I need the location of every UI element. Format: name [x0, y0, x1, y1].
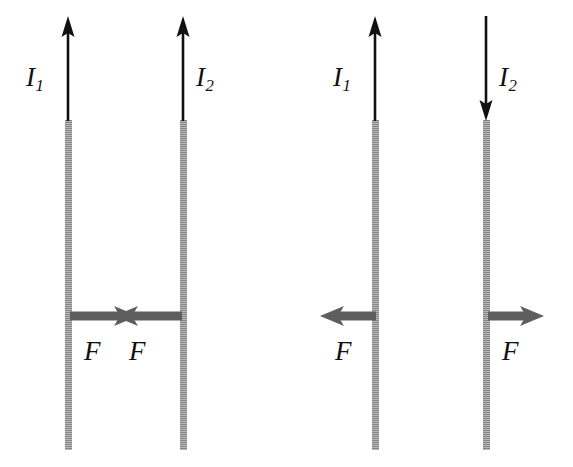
current-arrow-3-up: [367, 16, 383, 121]
current-label-4-symbol: I: [499, 62, 508, 92]
current-label-4-subscript: 2: [509, 76, 517, 95]
force-arrow-4-right: [488, 303, 544, 329]
force-label-3: F: [335, 338, 352, 365]
current-label-2-symbol: I: [196, 62, 205, 92]
wire-3: [372, 120, 379, 450]
current-label-2-subscript: 2: [206, 76, 214, 95]
current-label-3: I1: [333, 64, 350, 91]
current-arrow-1-up: [60, 16, 76, 121]
current-label-2: I2: [196, 64, 213, 91]
wire-1: [65, 120, 72, 450]
force-arrow-2-left: [114, 303, 182, 329]
wire-2: [180, 120, 187, 450]
current-label-4: I2: [499, 64, 516, 91]
current-label-1-symbol: I: [26, 62, 35, 92]
force-label-4: F: [502, 338, 519, 365]
current-label-1-subscript: 1: [36, 76, 44, 95]
current-arrow-2-up: [175, 16, 191, 121]
panel-attraction: I1 I2 F F: [0, 0, 290, 467]
current-label-3-subscript: 1: [343, 76, 351, 95]
current-arrow-4-down: [478, 16, 494, 121]
parallel-wires-force-diagram: I1 I2 F F: [0, 0, 573, 467]
force-label-2: F: [129, 338, 146, 365]
panel-repulsion: I1 I2 F F: [290, 0, 573, 467]
force-arrow-3-left: [320, 303, 376, 329]
wire-4: [483, 120, 490, 450]
force-label-1: F: [84, 338, 101, 365]
current-label-1: I1: [26, 64, 43, 91]
current-label-3-symbol: I: [333, 62, 342, 92]
